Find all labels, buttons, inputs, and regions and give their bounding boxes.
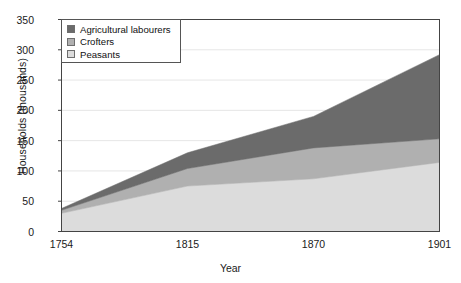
area-series-group <box>62 55 440 232</box>
x-tick-label: 1754 <box>50 238 73 250</box>
legend-item: Agricultural labourers <box>67 23 176 36</box>
chart-legend: Agricultural labourersCroftersPeasants <box>61 19 181 63</box>
legend-swatch-icon <box>67 38 75 46</box>
x-axis-title: Year <box>0 262 461 274</box>
legend-swatch-icon <box>67 25 75 33</box>
legend-swatch-icon <box>67 50 75 58</box>
stacked-area-chart: Households (thousands) 05010015020025030… <box>0 0 461 283</box>
legend-label: Agricultural labourers <box>80 25 171 35</box>
legend-label: Peasants <box>80 50 120 60</box>
x-tick-label: 1901 <box>428 238 451 250</box>
legend-item: Crofters <box>67 36 176 49</box>
legend-item: Peasants <box>67 48 176 61</box>
x-tick-label: 1870 <box>302 238 325 250</box>
x-tick-label: 1815 <box>176 238 199 250</box>
legend-label: Crofters <box>80 37 114 47</box>
